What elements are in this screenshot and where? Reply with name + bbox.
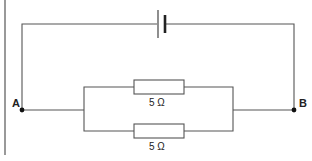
resistor-bottom-icon [134, 124, 184, 138]
node-a-label: A [12, 97, 20, 109]
node-b-label: B [299, 97, 307, 109]
battery-icon [158, 10, 165, 38]
resistor-bottom-label: 5 Ω [149, 141, 165, 152]
resistor-top-label: 5 Ω [149, 97, 165, 108]
circuit-diagram: A B 5 Ω 5 Ω [0, 0, 312, 161]
node-a-dot [20, 108, 25, 113]
circuit-svg [0, 0, 312, 161]
resistor-top-icon [134, 80, 184, 94]
wires [22, 24, 294, 131]
node-b-dot [292, 108, 297, 113]
